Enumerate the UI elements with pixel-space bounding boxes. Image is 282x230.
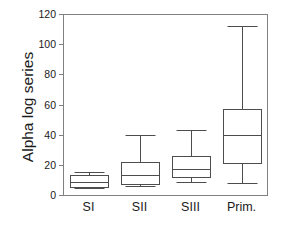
box-plot-chart: Alpha log series 020406080100120 SISIISI… xyxy=(0,0,282,230)
plot-area xyxy=(0,0,282,230)
plot-frame xyxy=(64,15,268,196)
